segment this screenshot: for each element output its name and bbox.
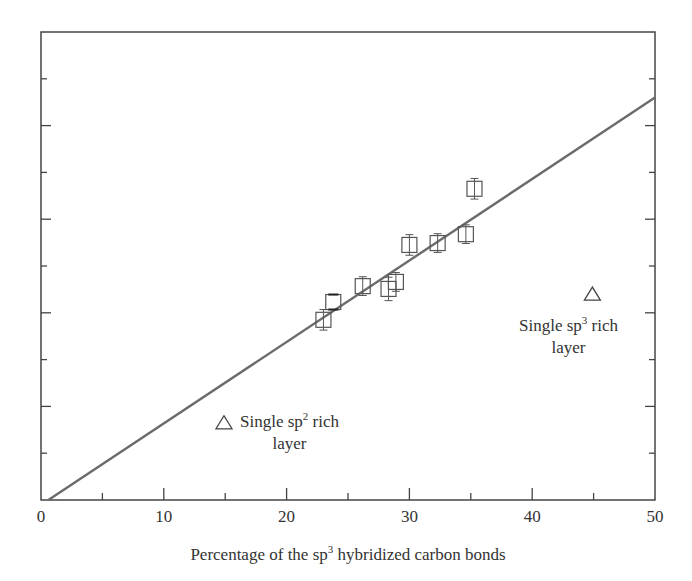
x-tick-label: 10: [155, 507, 172, 527]
data-points: [316, 178, 482, 330]
x-tick-label: 30: [401, 507, 418, 527]
triangle-marker: [584, 287, 600, 300]
data-point-square: [430, 234, 445, 253]
annotation-sp2-layer: Single sp2 rich layer: [240, 411, 339, 455]
annotation-sp3-layer: Single sp3 rich layer: [519, 315, 618, 359]
x-tick-label: 0: [37, 507, 46, 527]
triangle-marker: [216, 416, 232, 429]
x-axis-title: Percentage of the sp3 hybridized carbon …: [190, 545, 505, 565]
data-point-square: [467, 178, 482, 199]
axis-ticks: [41, 79, 655, 500]
plot-frame: [41, 32, 655, 500]
scatter-plot: [0, 0, 692, 581]
x-tick-label: 20: [278, 507, 295, 527]
x-tick-label: 40: [524, 507, 541, 527]
data-point-square: [355, 277, 370, 296]
data-point-square: [402, 235, 417, 256]
linear-fit-line: [48, 98, 655, 500]
fit-line: [48, 98, 655, 500]
x-tick-label: 50: [647, 507, 664, 527]
